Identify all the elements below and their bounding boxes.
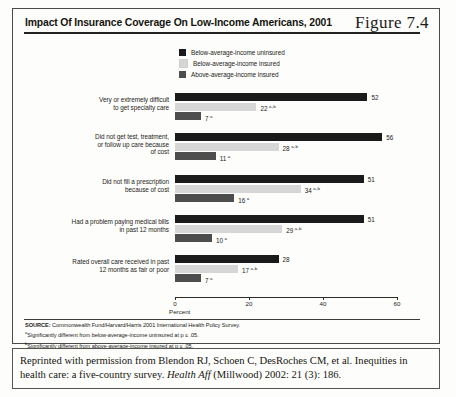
category-label-line: to get specialty care	[17, 104, 169, 112]
category-label-line: of cost	[17, 148, 169, 156]
axis-tick-label: 60	[394, 300, 401, 307]
category-label: Very or extremely difficultto get specia…	[17, 96, 169, 111]
bar	[175, 133, 382, 141]
category-label-line: Did not fill a prescription	[17, 178, 169, 186]
note-source-label: SOURCE:	[25, 322, 50, 328]
bar-row: 34 a,b	[175, 185, 437, 193]
legend-swatch-icon	[179, 71, 186, 78]
page-root: Impact Of Insurance Coverage On Low-Inco…	[0, 0, 456, 397]
bar	[175, 185, 301, 193]
caption-journal-name: Health Aff	[167, 369, 211, 380]
category-label: Did not fill a prescriptionbecause of co…	[17, 178, 169, 193]
bar	[175, 234, 212, 242]
bar-value-label: 7 a	[205, 275, 213, 285]
bar-row: 28	[175, 255, 437, 263]
bar	[175, 194, 234, 202]
bar	[175, 143, 279, 151]
bar	[175, 175, 364, 183]
bar	[175, 274, 201, 282]
legend-item-label: Below-average-income uninsured	[191, 49, 285, 56]
bar-group: 5222 a,b7 a	[175, 93, 437, 122]
bar	[175, 93, 367, 101]
bar-row: 51	[175, 175, 437, 183]
significance-marker: a,b	[290, 144, 299, 149]
axis-tick-label: 0	[173, 300, 176, 307]
bar-row: 22 a,b	[175, 103, 437, 111]
legend-item-label: Below-average-income insured	[193, 60, 280, 67]
bar-row: 51	[175, 215, 437, 223]
bar-value-label: 52	[371, 94, 378, 102]
bar-row: 28 a,b	[175, 143, 437, 151]
category-label: Had a problem paying medical billsin pas…	[17, 218, 169, 233]
category-label-line: or follow up care because	[17, 141, 169, 149]
significance-marker: a,b	[312, 186, 321, 191]
bar-row: 16 a	[175, 194, 437, 202]
bar-value-label: 28	[283, 256, 290, 264]
category-label: Did not get test, treatment,or follow up…	[17, 133, 169, 156]
bar-value-label: 11 a	[220, 153, 231, 163]
bar-value-label: 16 a	[238, 195, 249, 205]
significance-marker: a	[208, 276, 212, 281]
note-marker: a	[25, 330, 27, 335]
bar-value-label: 10 a	[216, 235, 227, 245]
chart-legend: Below-average-income uninsuredBelow-aver…	[179, 48, 285, 81]
category-label-line: in past 12 months	[17, 226, 169, 234]
note-marker: b	[25, 341, 27, 346]
legend-item-2: Above-average-income insured	[179, 70, 285, 79]
significance-marker: a,b	[249, 266, 258, 271]
bar-value-label: 51	[368, 216, 375, 224]
bar-row: 29 a,b	[175, 225, 437, 233]
x-axis-line	[175, 297, 397, 298]
legend-item-label: Above-average-income insured	[191, 71, 278, 78]
legend-item-0: Below-average-income uninsured	[179, 48, 285, 57]
bar-row: 56	[175, 133, 437, 141]
notes-divider	[24, 319, 420, 320]
significance-marker: a	[226, 154, 230, 159]
caption-panel: Reprinted with permission from Blendon R…	[12, 348, 440, 389]
bar-group: 5134 a,b16 a	[175, 175, 437, 204]
note-line: SOURCE: Commonwealth Fund/Harvard/Harris…	[25, 322, 425, 329]
bar	[175, 215, 364, 223]
bar-group: 2817 a,b7 a	[175, 255, 437, 284]
significance-marker: a	[245, 196, 249, 201]
legend-item-1: Below-average-income insured	[179, 59, 285, 68]
category-label: Rated overall care received in past12 mo…	[17, 258, 169, 273]
category-label-line: Did not get test, treatment,	[17, 133, 169, 141]
significance-marker: a,b	[293, 226, 302, 231]
axis-tick-label: 20	[246, 300, 253, 307]
figure-number: Figure 7.4	[355, 13, 429, 33]
caption-line-2-post: (Millwood) 2002: 21 (3): 186.	[211, 369, 342, 380]
bar-row: 10 a	[175, 234, 437, 242]
bar-row: 7 a	[175, 274, 437, 282]
category-label-line: because of cost	[17, 186, 169, 194]
caption-line-1: Reprinted with permission from Blendon R…	[20, 355, 397, 366]
bar	[175, 255, 279, 263]
bar-row: 17 a,b	[175, 265, 437, 273]
category-label-line: 12 months as fair or poor	[17, 266, 169, 274]
bar	[175, 152, 216, 160]
bar	[175, 103, 256, 111]
note-line: aSignificantly different from below-aver…	[25, 329, 425, 339]
significance-marker: a	[208, 114, 212, 119]
bar-value-label: 7 a	[205, 113, 213, 123]
bar	[175, 225, 282, 233]
chart-plot-area: Very or extremely difficultto get specia…	[13, 85, 441, 300]
category-label-line: Had a problem paying medical bills	[17, 218, 169, 226]
x-axis-title: Percent	[169, 308, 190, 315]
significance-marker: a,b	[267, 104, 276, 109]
bar-group: 5628 a,b11 a	[175, 133, 437, 162]
bar-row: 11 a	[175, 152, 437, 160]
category-label-line: Rated overall care received in past	[17, 258, 169, 266]
category-label-line: Very or extremely difficult	[17, 96, 169, 104]
bar-value-label: 51	[368, 176, 375, 184]
figure-panel: Impact Of Insurance Coverage On Low-Inco…	[12, 8, 440, 344]
figure-notes: SOURCE: Commonwealth Fund/Harvard/Harris…	[25, 322, 425, 350]
axis-tick-label: 40	[320, 300, 327, 307]
caption-text: Reprinted with permission from Blendon R…	[20, 354, 431, 382]
figure-title: Impact Of Insurance Coverage On Low-Inco…	[25, 17, 325, 29]
bar	[175, 265, 238, 273]
significance-marker: a	[223, 236, 227, 241]
bar-row: 52	[175, 93, 437, 101]
bar-value-label: 56	[386, 134, 393, 142]
legend-swatch-icon	[179, 59, 188, 68]
